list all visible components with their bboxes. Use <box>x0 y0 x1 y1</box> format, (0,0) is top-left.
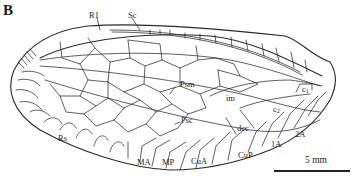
wing-cells <box>50 38 258 136</box>
label-c2: c2 <box>273 105 280 114</box>
basal-costal-crossveins <box>18 49 36 68</box>
label-rs: Rs <box>58 134 67 143</box>
label-dcc: dcc <box>237 124 249 133</box>
label-sc: Sc <box>128 11 137 20</box>
label-c1: c1 <box>302 85 309 94</box>
scale-bar <box>274 170 350 172</box>
panel-letter: B <box>3 2 13 19</box>
label-psm: Psm <box>180 80 195 89</box>
label-psc: Psc <box>181 116 193 125</box>
label-im: im <box>226 94 235 103</box>
label-c1-sub: 1 <box>306 88 309 94</box>
psc-leader <box>175 122 180 124</box>
scale-bar-label: 5 mm <box>305 155 327 165</box>
wing-figure: B R1 Sc Psm im c1 c2 Psc dcc Rs MA MP Cu… <box>0 0 354 177</box>
marginal-branches <box>16 71 326 170</box>
label-cua: CuA <box>191 157 207 166</box>
label-cup: CuP <box>238 151 253 160</box>
wing-venation-drawing <box>0 0 354 177</box>
label-1a: 1A <box>271 140 281 149</box>
label-2a: 2A <box>295 130 305 139</box>
label-ma: MA <box>137 158 151 167</box>
label-c2-sub: 2 <box>277 108 280 114</box>
label-mp: MP <box>162 158 174 167</box>
wing-outline <box>11 25 336 170</box>
label-r1: R1 <box>89 11 99 20</box>
